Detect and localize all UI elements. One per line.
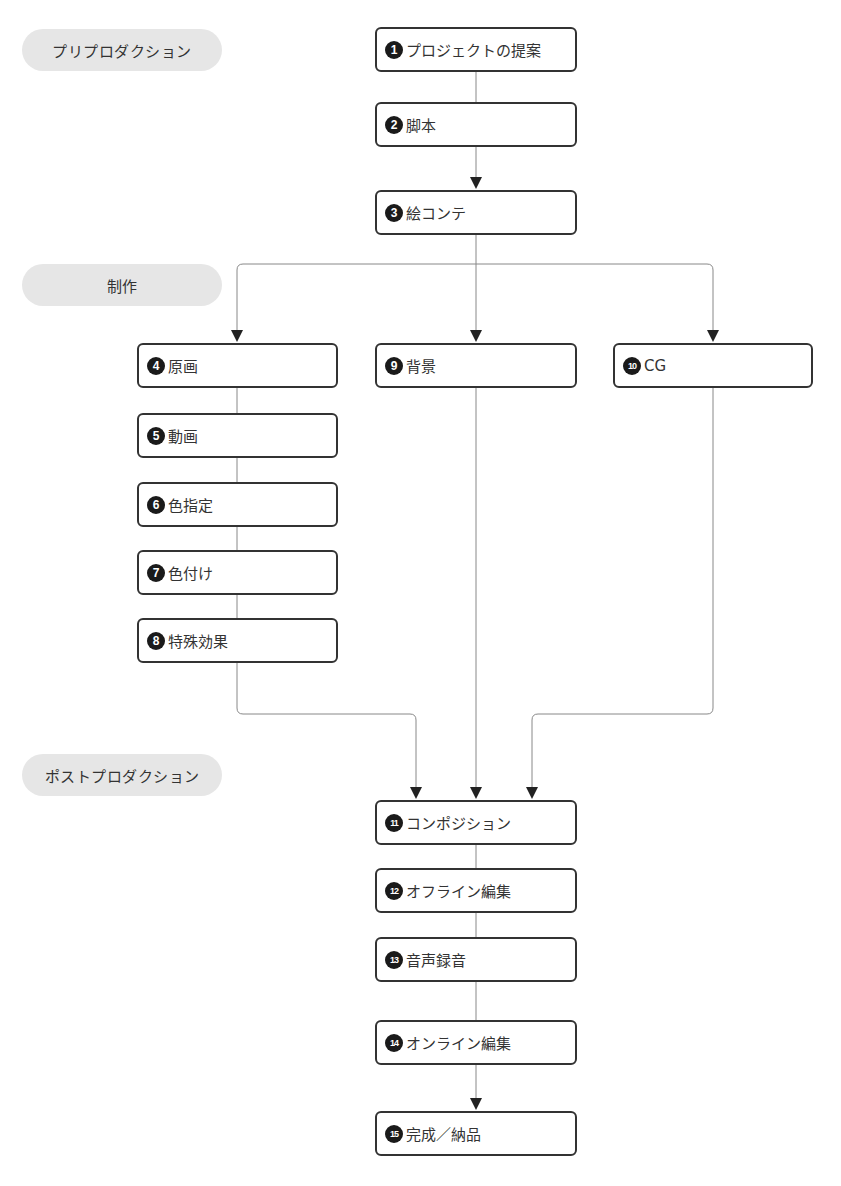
number-badge-icon: 9 (385, 357, 403, 375)
step-8-special-effects: 8 特殊効果 (137, 618, 338, 663)
number-badge-icon: 11 (385, 814, 403, 832)
arrow-head (707, 330, 719, 342)
number-badge-icon: 4 (147, 357, 165, 375)
step-1-project-proposal: 1 プロジェクトの提案 (375, 27, 577, 72)
number-badge-icon: 1 (385, 41, 403, 59)
arrow-head (470, 787, 482, 799)
number-badge-icon: 2 (385, 116, 403, 134)
step-11-composition: 11 コンポジション (375, 800, 577, 845)
step-label: 原画 (168, 355, 198, 376)
phase-label-preproduction: プリプロダクション (22, 29, 222, 71)
number-badge-icon: 7 (147, 564, 165, 582)
step-label: 脚本 (406, 114, 436, 135)
step-label: 完成／納品 (406, 1123, 481, 1144)
step-13-audio-recording: 13 音声録音 (375, 937, 577, 982)
step-label: 背景 (406, 355, 436, 376)
arrow-head (410, 787, 422, 799)
step-3-storyboard: 3 絵コンテ (375, 190, 577, 235)
arrow-head (470, 177, 482, 189)
number-badge-icon: 5 (147, 427, 165, 445)
step-label: オンライン編集 (406, 1032, 511, 1053)
arrow-head (231, 330, 243, 342)
step-10-cg: 10 CG (613, 343, 813, 388)
arrow-head (470, 330, 482, 342)
step-label: 絵コンテ (406, 202, 466, 223)
phase-label-text: プリプロダクション (52, 40, 192, 61)
step-15-completion-delivery: 15 完成／納品 (375, 1111, 577, 1156)
step-2-script: 2 脚本 (375, 102, 577, 147)
step-label: 音声録音 (406, 949, 466, 970)
number-badge-icon: 6 (147, 496, 165, 514)
step-label: オフライン編集 (406, 880, 511, 901)
number-badge-icon: 12 (385, 882, 403, 900)
step-label: プロジェクトの提案 (406, 39, 541, 60)
number-badge-icon: 14 (385, 1034, 403, 1052)
arrow-head (526, 787, 538, 799)
step-label: コンポジション (406, 812, 511, 833)
phase-label-postproduction: ポストプロダクション (22, 754, 222, 796)
phase-label-text: ポストプロダクション (45, 765, 200, 786)
step-7-coloring: 7 色付け (137, 550, 338, 595)
step-label: 特殊効果 (168, 630, 228, 651)
step-5-in-between: 5 動画 (137, 413, 338, 458)
step-4-key-animation: 4 原画 (137, 343, 338, 388)
step-12-offline-editing: 12 オフライン編集 (375, 868, 577, 913)
step-9-background: 9 背景 (375, 343, 577, 388)
number-badge-icon: 15 (385, 1125, 403, 1143)
step-label: 動画 (168, 425, 198, 446)
flow-connectors (0, 0, 841, 1186)
step-label: 色付け (168, 562, 213, 583)
step-label: 色指定 (168, 494, 213, 515)
phase-label-text: 制作 (107, 275, 138, 296)
step-label: CG (644, 357, 666, 375)
arrow-head (470, 1098, 482, 1110)
number-badge-icon: 10 (623, 357, 641, 375)
phase-label-production: 制作 (22, 264, 222, 306)
step-6-color-design: 6 色指定 (137, 482, 338, 527)
number-badge-icon: 3 (385, 204, 403, 222)
number-badge-icon: 13 (385, 951, 403, 969)
number-badge-icon: 8 (147, 632, 165, 650)
step-14-online-editing: 14 オンライン編集 (375, 1020, 577, 1065)
